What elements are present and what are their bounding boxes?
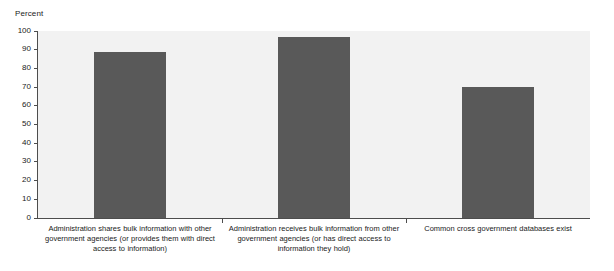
y-tick-label: 40 [22, 138, 31, 148]
x-tick-mark [222, 219, 223, 223]
bar [462, 87, 534, 218]
y-tick-label: 30 [22, 156, 31, 166]
y-tick-label: 50 [22, 119, 31, 129]
y-tick-label: 80 [22, 63, 31, 73]
x-axis-label: Common cross government databases exist [412, 224, 584, 234]
x-axis-line [37, 218, 590, 219]
y-tick-label: 0 [27, 213, 31, 223]
y-tick-label: 90 [22, 44, 31, 54]
bars-group [38, 31, 590, 218]
x-axis-labels: Administration shares bulk information w… [38, 224, 590, 268]
y-tick-label: 10 [22, 194, 31, 204]
x-axis-label: Administration shares bulk information w… [44, 224, 216, 254]
bar [278, 37, 350, 218]
bar-chart: Percent 0102030405060708090100 Administr… [0, 0, 614, 271]
y-tick-label: 60 [22, 100, 31, 110]
y-tick-label: 20 [22, 175, 31, 185]
x-axis-label: Administration receives bulk information… [228, 224, 400, 254]
bar [94, 52, 166, 218]
y-axis-title: Percent [15, 9, 43, 18]
y-tick-label: 100 [18, 26, 31, 36]
x-tick-mark [406, 219, 407, 223]
y-tick-label: 70 [22, 82, 31, 92]
